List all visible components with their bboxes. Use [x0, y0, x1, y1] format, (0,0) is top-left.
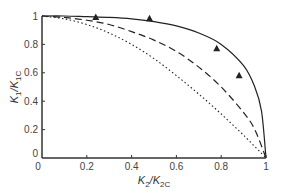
triangle-marker	[146, 15, 153, 22]
x-tick-label: 0	[35, 161, 41, 172]
solid-curve	[42, 16, 266, 158]
y-tick-label: 1	[32, 11, 38, 22]
x-tick-label: 1	[263, 161, 269, 172]
y-tick-label: 0	[32, 148, 38, 159]
plot-area	[42, 13, 266, 158]
x-tick-label: 0.8	[214, 161, 228, 172]
dashed-curve	[42, 16, 266, 158]
x-tick-label: 0.4	[125, 161, 139, 172]
dotted-curve	[42, 16, 266, 158]
x-tick-label: 0.6	[169, 161, 183, 172]
y-tick-label: 0.4	[24, 96, 38, 107]
x-axis-label: K2/K2C	[138, 174, 171, 189]
y-tick-label: 0.2	[24, 124, 38, 135]
triangle-marker	[236, 72, 243, 79]
axes: 00.20.40.60.8100.20.40.60.81	[24, 11, 269, 173]
chart: 00.20.40.60.8100.20.40.60.81 K1/K1C K2/K…	[0, 0, 285, 194]
triangle-marker	[213, 45, 220, 52]
x-tick-label: 0.2	[80, 161, 94, 172]
y-tick-label: 0.8	[24, 39, 38, 50]
y-tick-label: 0.6	[24, 67, 38, 78]
y-axis-label: K1/K1C	[8, 71, 23, 104]
